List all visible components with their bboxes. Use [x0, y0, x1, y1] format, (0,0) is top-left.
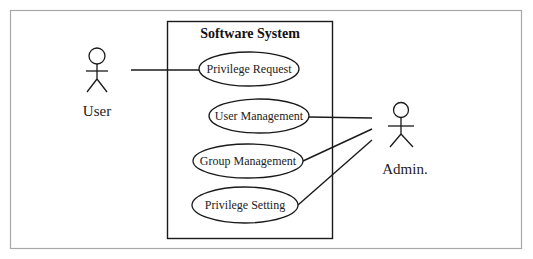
use-case-label: Group Management: [200, 154, 297, 168]
use-case-user-management[interactable]: User Management: [209, 99, 309, 133]
use-case-diagram: Software System Privilege Request User M…: [0, 0, 533, 259]
use-case-label: User Management: [215, 109, 304, 123]
actor-label: Admin.: [382, 161, 427, 177]
use-case-label: Privilege Setting: [205, 198, 285, 212]
use-case-group-management[interactable]: Group Management: [193, 144, 303, 178]
use-case-privilege-setting[interactable]: Privilege Setting: [192, 187, 298, 223]
use-case-privilege-request[interactable]: Privilege Request: [199, 52, 299, 86]
system-title: Software System: [200, 26, 300, 41]
use-case-label: Privilege Request: [207, 62, 293, 76]
association-admin-user-management: [309, 117, 372, 118]
actor-label: User: [83, 103, 111, 119]
